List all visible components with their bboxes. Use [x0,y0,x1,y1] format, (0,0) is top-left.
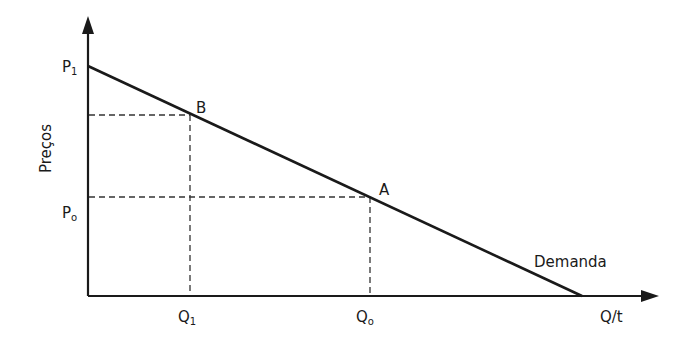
label-point-b: B [196,99,206,117]
label-demand: Demanda [534,253,607,271]
label-q1: Q1 [178,308,196,327]
label-q0: Qo [356,308,374,327]
label-p1: P1 [62,58,77,77]
label-point-a: A [379,181,390,199]
demand-curve [88,66,582,296]
y-axis-arrow-icon [82,16,94,34]
label-x-axis: Q/t [600,308,623,326]
label-p0: Po [62,204,77,223]
x-axis-arrow-icon [641,290,659,302]
demand-diagram: P1 Po Q1 Qo B A Demanda Q/t Preços [0,0,694,346]
label-y-axis: Preços [37,124,55,173]
